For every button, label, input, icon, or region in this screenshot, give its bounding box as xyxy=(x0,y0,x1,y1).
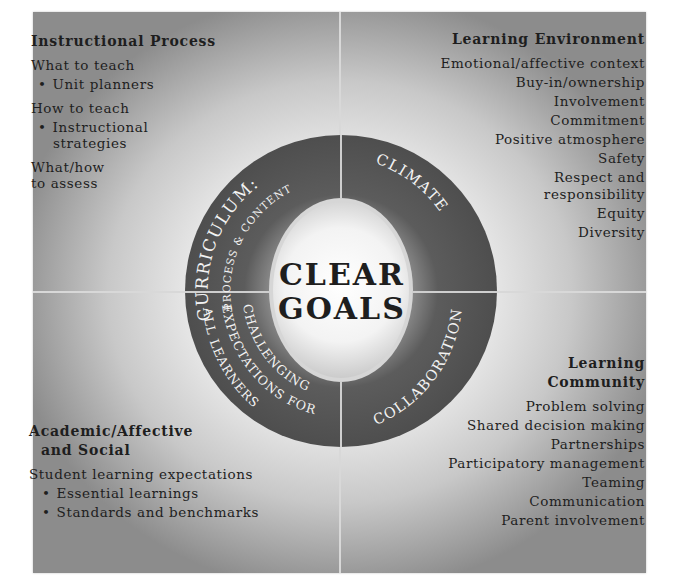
goals-ring: CURRICULUM: PROCESS & CONTENT CLIMATE CO… xyxy=(0,0,675,586)
center-title-line2: GOALS xyxy=(278,291,406,326)
center-title-line1: CLEAR xyxy=(279,257,405,292)
